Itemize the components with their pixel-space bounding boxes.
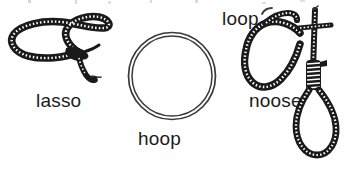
figure-label-noose: noose (249, 91, 302, 110)
figure-label-hoop: hoop (138, 129, 181, 148)
figure-label-lasso: lasso (36, 91, 81, 110)
figure-label-loop: loop (222, 9, 259, 28)
